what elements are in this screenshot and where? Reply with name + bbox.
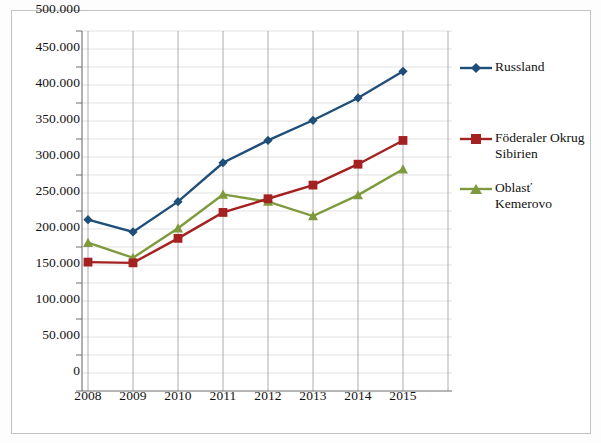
data-point-sibirien-2015 [399,136,408,145]
legend-label-sibirien: Föderaler Okrug Sibirien [495,130,585,162]
y-axis-ticks [76,31,82,391]
data-point-kemerovo-2015 [398,164,408,173]
data-point-kemerovo-2014 [353,190,363,199]
chart-page: 500.000 450.000 400.000 350.000 300.000 … [0,0,601,443]
data-point-sibirien-2008 [84,258,93,267]
data-point-kemerovo-2008 [83,238,93,247]
data-point-russland-2008 [83,215,92,224]
series-sibirien [84,136,408,267]
legend-swatch-russland [459,61,493,75]
data-point-sibirien-2011 [219,208,228,217]
data-point-sibirien-2014 [354,160,363,169]
legend-label-russland: Russland [495,59,545,75]
data-point-sibirien-2013 [309,181,318,190]
data-point-russland-2013 [308,116,317,125]
legend-label-kemerovo: Oblasť Kemerovo [495,180,590,212]
data-point-sibirien-2010 [174,234,183,243]
legend-swatch-kemerovo [459,182,493,196]
data-point-sibirien-2009 [129,258,138,267]
legend-swatch-sibirien [459,132,493,146]
data-point-russland-2012 [263,136,272,145]
chart-frame: 500.000 450.000 400.000 350.000 300.000 … [11,10,591,434]
data-point-sibirien-2012 [264,194,273,203]
